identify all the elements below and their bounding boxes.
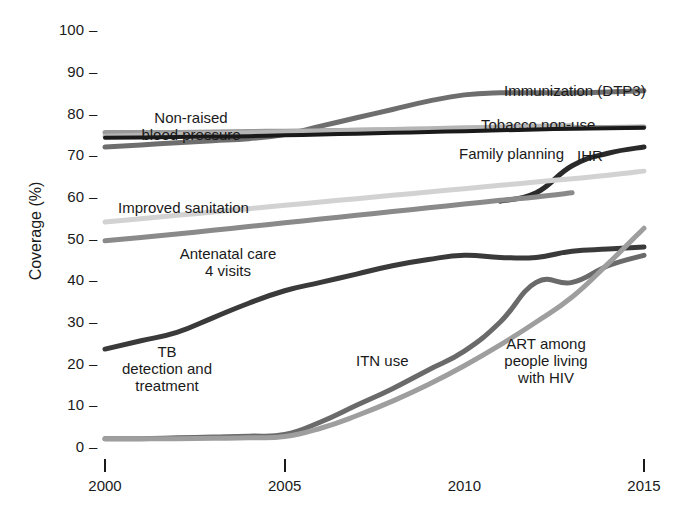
series-label-non-raised-bp: Non-raised blood pressure [101,109,281,143]
series-label-tobacco: Tobacco non-use [481,116,595,133]
series-label-improved-sanitation: Improved sanitation [118,199,249,216]
plot-area [0,0,678,516]
series-label-family-planning: Family planning [459,145,564,162]
series-label-antenatal-care: Antenatal care 4 visits [138,245,318,279]
series-label-tb: TB detection and treatment [77,343,257,394]
chart-container: Coverage (%) 0–10–20–30–40–50–60–70–80–9… [0,0,678,516]
series-label-immunization: Immunization (DTP3) [504,82,646,99]
series-label-ihr: IHR [577,147,603,164]
series-label-itn-use: ITN use [356,352,409,369]
series-label-art: ART among people living with HIV [456,335,636,386]
